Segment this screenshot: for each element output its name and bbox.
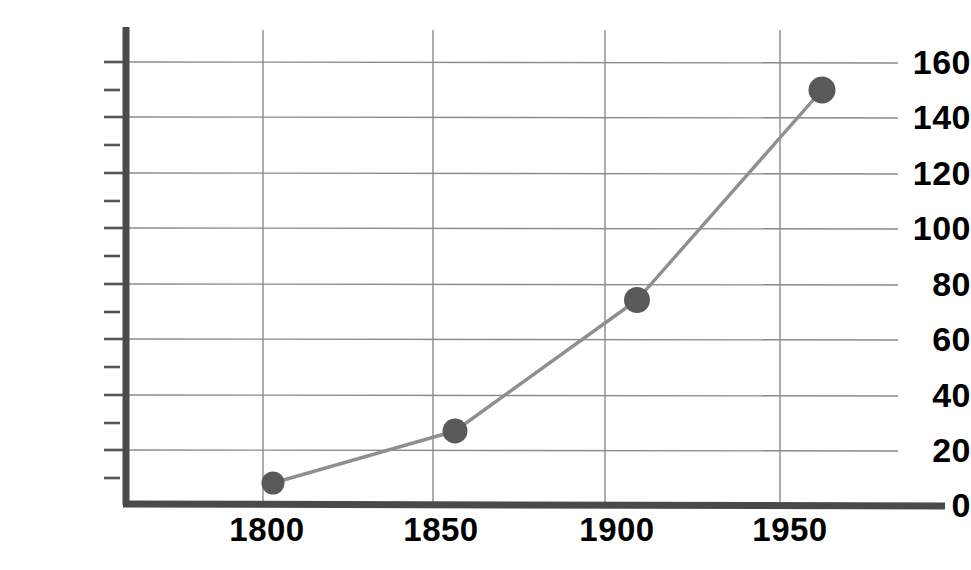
y-tick-label-160: 160 <box>875 43 971 82</box>
x-tick-label-1850: 1850 <box>403 511 478 549</box>
data-point <box>262 472 285 495</box>
data-series-line <box>273 90 822 483</box>
gridlines-vertical <box>263 30 780 505</box>
chart-plot-area <box>0 0 971 570</box>
y-tick-label-100: 100 <box>875 209 971 248</box>
y-tick-label-40: 40 <box>875 376 971 415</box>
y-tick-label-80: 80 <box>875 265 971 304</box>
y-tick-label-60: 60 <box>875 320 971 359</box>
y-tick-label-0: 0 <box>875 486 971 525</box>
x-tick-label-1950: 1950 <box>752 511 827 549</box>
y-tick-label-120: 120 <box>875 154 971 193</box>
data-point <box>443 419 468 444</box>
gridlines-horizontal <box>125 62 898 451</box>
data-point <box>809 77 836 104</box>
line-chart: 160 140 120 100 80 60 40 20 0 1800 1850 … <box>0 0 971 570</box>
x-tick-label-1800: 1800 <box>229 511 304 549</box>
y-tick-label-140: 140 <box>875 98 971 137</box>
x-axis-line <box>123 504 945 506</box>
data-point <box>624 287 650 313</box>
x-tick-label-1900: 1900 <box>579 511 654 549</box>
y-tick-label-20: 20 <box>875 431 971 470</box>
